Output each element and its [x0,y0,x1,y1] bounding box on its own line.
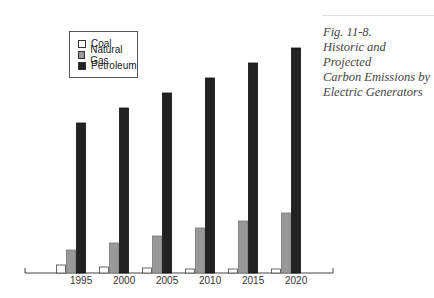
legend-item-natural-gas: Natural Gas [78,49,137,60]
legend-swatch-petroleum [78,62,86,70]
x-tick-label: 2000 [113,275,136,286]
bar-petroleum-2000 [120,108,129,273]
legend-swatch-coal [78,40,86,48]
bar-natural-gas-2020 [282,213,291,273]
x-tick-label: 2005 [156,275,179,286]
legend-item-petroleum: Petroleum [78,60,137,71]
bar-coal-2000 [100,267,109,273]
x-tick-label: 2020 [285,275,308,286]
legend-label: Petroleum [91,60,137,71]
bar-natural-gas-2015 [239,221,248,273]
legend-swatch-natural-gas [78,51,85,59]
x-tick-label: 2015 [242,275,265,286]
figure-caption: Fig. 11-8. Historic and Projected Carbon… [323,25,434,100]
x-tick-label: 1995 [70,275,93,286]
bar-coal-2020 [272,269,281,273]
bar-petroleum-2020 [292,48,301,273]
figure-number: Fig. 11-8. [323,25,434,40]
bar-coal-2005 [143,268,152,273]
bar-chart: 199520002005201020152020 Coal Natural Ga… [0,0,434,298]
bar-natural-gas-1995 [67,250,76,273]
chart-legend: Coal Natural Gas Petroleum [69,31,138,78]
bar-coal-2010 [186,269,195,273]
bar-natural-gas-2005 [153,236,162,273]
bar-natural-gas-2000 [110,243,119,273]
caption-divider [322,15,434,16]
caption-line: Electric Generators [323,85,434,100]
caption-line: Historic and Projected [323,40,434,70]
bar-coal-1995 [57,265,66,273]
bar-petroleum-2015 [249,63,258,273]
caption-line: Carbon Emissions by [323,70,434,85]
bar-natural-gas-2010 [196,228,205,273]
x-tick-label: 2010 [199,275,222,286]
bar-coal-2015 [229,269,238,273]
bar-petroleum-2005 [163,93,172,273]
bar-petroleum-2010 [206,78,215,273]
bar-petroleum-1995 [77,123,86,273]
